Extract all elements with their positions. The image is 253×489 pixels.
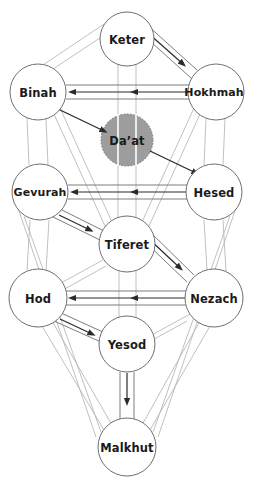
arrow-edge-hokhmah-binah	[66, 85, 189, 99]
arrow-edge-yesod-malkhut	[120, 372, 134, 421]
node-daat: Da’at	[101, 114, 153, 166]
node-label-hod: Hod	[25, 292, 51, 306]
node-malkhut[interactable]: Malkhut	[98, 418, 156, 476]
edge-tiferet-yesod	[119, 271, 136, 318]
edge-keter-binah	[43, 24, 109, 71]
node-yesod[interactable]: Yesod	[99, 316, 155, 372]
tree-of-life-canvas: Da’at	[0, 0, 253, 489]
edge-hesed-nezach	[204, 220, 226, 271]
node-keter[interactable]: Keter	[100, 12, 154, 66]
node-hokhmah[interactable]: Hokhmah	[184, 64, 244, 120]
edge-nezach-yesod	[149, 314, 190, 342]
node-hesed[interactable]: Hesed	[186, 164, 242, 220]
edge-binah-gevurah	[27, 118, 48, 165]
arrow-edge-hesed-gevurah	[68, 185, 187, 199]
node-label-daat: Da’at	[109, 134, 145, 148]
tree-of-life-diagram: Da’at	[0, 0, 253, 489]
node-label-hesed: Hesed	[194, 186, 235, 200]
node-tiferet[interactable]: Tiferet	[99, 216, 155, 272]
node-gevurah[interactable]: Gevurah	[12, 164, 68, 220]
node-label-nezach: Nezach	[190, 292, 237, 306]
arrow-edge-binah-daat	[58, 109, 104, 131]
node-label-gevurah: Gevurah	[14, 186, 67, 199]
edge-tiferet-hod	[61, 260, 106, 290]
node-hod[interactable]: Hod	[9, 269, 67, 327]
node-label-hokhmah: Hokhmah	[184, 86, 243, 99]
node-label-yesod: Yesod	[107, 338, 147, 352]
node-label-tiferet: Tiferet	[105, 238, 150, 252]
node-label-malkhut: Malkhut	[100, 441, 154, 455]
node-nezach[interactable]: Nezach	[185, 269, 243, 327]
arrow-edge-gevurah-tiferet	[53, 208, 104, 240]
node-binah[interactable]: Binah	[10, 64, 66, 120]
edge-hokhmah-hesed	[204, 118, 225, 165]
arrow-edge-nezach-hod	[66, 291, 187, 305]
edge-gevurah-hod	[27, 220, 49, 271]
node-label-binah: Binah	[19, 86, 56, 100]
node-layer: Keter Binah Hokhmah Gevurah Hesed Tifere	[9, 12, 244, 476]
node-label-keter: Keter	[109, 33, 145, 47]
